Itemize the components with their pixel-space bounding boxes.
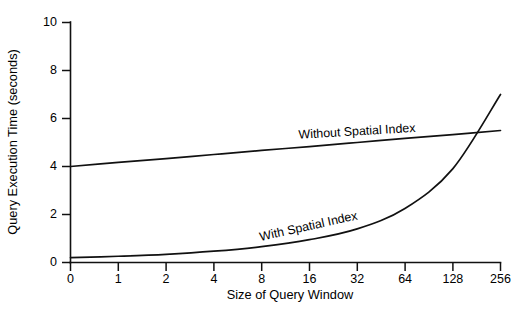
x-tick-label: 64 [398, 272, 412, 286]
y-tick-label: 0 [50, 255, 57, 269]
chart-container: 10 8 6 4 2 0 0 1 2 4 8 16 [0, 0, 522, 310]
x-tick-label: 8 [258, 272, 265, 286]
y-tick-label: 10 [43, 15, 57, 29]
x-tick-label: 1 [115, 272, 122, 286]
x-tick-label: 4 [210, 272, 217, 286]
y-axis-title: Query Execution Time (seconds) [5, 49, 20, 235]
y-tick-label: 8 [50, 63, 57, 77]
x-tick-label: 2 [163, 272, 170, 286]
y-tick-label: 6 [50, 111, 57, 125]
x-axis-title: Size of Query Window [227, 287, 354, 302]
x-tick-label: 256 [490, 272, 511, 286]
x-tick-label: 128 [442, 272, 463, 286]
x-tick-label: 16 [303, 272, 317, 286]
line-chart: 10 8 6 4 2 0 0 1 2 4 8 16 [0, 0, 522, 310]
x-tick-label: 0 [67, 272, 74, 286]
y-tick-label: 4 [50, 159, 57, 173]
x-tick-label: 32 [350, 272, 364, 286]
y-tick-label: 2 [50, 207, 57, 221]
